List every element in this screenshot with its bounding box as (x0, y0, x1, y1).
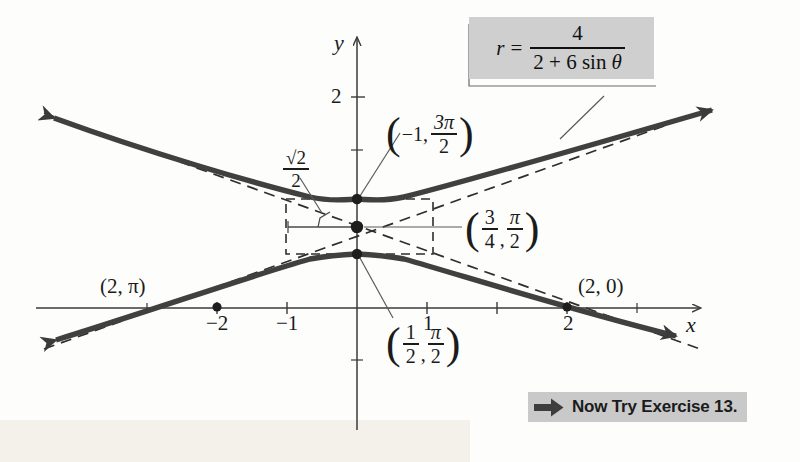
label-left-intercept: (2, π) (100, 276, 146, 297)
distance-measure-bracket (288, 212, 355, 233)
sqrt2-over-2-fraction: √2 2 (283, 148, 309, 190)
y-axis-label: y (334, 32, 344, 54)
paren-open: ( (386, 326, 401, 361)
center-point-angle: π 2 (507, 207, 523, 251)
label-center-point: ( 3 4 , π 2 ) (465, 207, 539, 251)
right-arrow-icon (534, 398, 564, 417)
x-axis-label: x (686, 314, 696, 336)
angle-denominator: 2 (436, 136, 452, 156)
equation-lhs: r (496, 36, 504, 61)
now-try-exercise-banner[interactable]: Now Try Exercise 13. (528, 392, 747, 422)
y-tick-label-2: 2 (331, 86, 342, 107)
distance-measure-label: √2 2 (281, 148, 311, 190)
fraction-bar (530, 47, 624, 49)
comma: , (421, 344, 426, 366)
theta-symbol: θ (611, 50, 621, 75)
center-point-r: 3 4 (482, 207, 498, 251)
equation-denominator: 2 + 6 sin θ (530, 50, 624, 75)
label-right-intercept: (2, 0) (578, 276, 624, 297)
angle-denominator: 2 (507, 231, 523, 251)
angle-numerator: π (428, 322, 444, 342)
paren-close: ) (459, 116, 474, 151)
paren-open: ( (465, 211, 480, 246)
point-lower-vertex (352, 249, 362, 259)
paren-close: ) (525, 211, 540, 246)
vertex-lower-angle: π 2 (428, 322, 444, 366)
comma: , (500, 229, 505, 251)
leader-lower-vertex (360, 258, 393, 318)
point-upper-vertex (352, 194, 362, 204)
vertex-lower-r: 1 2 (403, 322, 419, 366)
equation-callout: r = 4 2 + 6 sin θ (469, 17, 654, 79)
vertex-upper-r: −1, (402, 124, 428, 144)
vertex-upper-angle: 3π 2 (431, 112, 457, 156)
sqrt2-numerator: √2 (283, 148, 309, 167)
denominator-terms: 2 + 6 sin (533, 50, 606, 75)
figure-page: r = 4 2 + 6 sin θ x y −2 −1 1 2 2 √2 2 ( (0, 0, 800, 462)
angle-denominator: 2 (428, 346, 444, 366)
r-numerator: 3 (482, 207, 498, 227)
equation-equals: = (510, 36, 522, 61)
angle-numerator: 3π (431, 112, 457, 132)
equation-numerator: 4 (569, 21, 586, 46)
r-denominator: 2 (403, 346, 419, 366)
r-denominator: 4 (482, 231, 498, 251)
y-axis (351, 38, 365, 430)
paren-close: ) (446, 326, 461, 361)
x-tick-label-neg2: −2 (206, 313, 228, 334)
polar-equation: r = 4 2 + 6 sin θ (496, 21, 626, 75)
leader-equation (560, 96, 604, 139)
banner-text: Now Try Exercise 13. (572, 397, 737, 417)
equation-fraction: 4 2 + 6 sin θ (530, 21, 624, 75)
hyperbola-upper-branch (54, 110, 712, 200)
x-tick-label-2: 2 (563, 313, 574, 334)
point-center (351, 221, 363, 233)
paren-open: ( (386, 116, 401, 151)
x-tick-label-neg1: −1 (276, 313, 298, 334)
label-lower-vertex: ( 1 2 , π 2 ) (386, 322, 460, 366)
angle-numerator: π (507, 207, 523, 227)
r-numerator: 1 (403, 322, 419, 342)
sqrt2-denominator: 2 (288, 171, 304, 190)
label-upper-vertex: ( −1, 3π 2 ) (386, 112, 474, 156)
